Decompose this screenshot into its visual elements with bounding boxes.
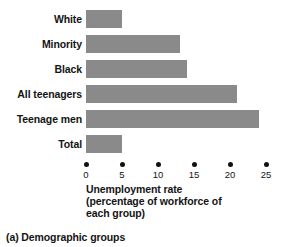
x-tick-dot [228,162,233,167]
x-tick-dot [120,162,125,167]
x-tick-dot [264,162,269,167]
bar-minority [86,35,180,53]
category-label-minority: Minority [0,35,82,53]
bar-white [86,10,122,28]
x-axis: 0 5 10 15 20 25 [0,160,286,182]
category-label-black: Black [0,60,82,78]
bar-row: All teenagers [0,85,286,103]
chart-figure: White Minority Black All teenagers Teena… [0,0,286,247]
x-axis-title-line-2: (percentage of workforce of [86,195,282,207]
x-tick-dot [192,162,197,167]
bar-row: White [0,10,286,28]
x-tick-label: 10 [146,169,170,181]
bar-total [86,135,122,153]
x-tick-label: 5 [110,169,134,181]
category-label-all-teenagers: All teenagers [0,85,82,103]
x-tick-label: 15 [182,169,206,181]
x-tick-label: 25 [254,169,278,181]
bar-teenage-men [86,110,259,128]
x-tick-label: 0 [74,169,98,181]
bar-row: Minority [0,35,286,53]
x-axis-title: Unemployment rate (percentage of workfor… [86,183,282,220]
category-label-white: White [0,10,82,28]
bar-all-teenagers [86,85,237,103]
figure-caption: (a) Demographic groups [6,231,125,243]
x-axis-title-line-1: Unemployment rate [86,183,282,195]
category-label-total: Total [0,135,82,153]
category-label-teenage-men: Teenage men [0,110,82,128]
x-tick-dot [84,162,89,167]
bar-row: Black [0,60,286,78]
bar-row: Total [0,135,286,153]
x-tick-dot [156,162,161,167]
x-axis-title-line-3: each group) [86,207,282,219]
bar-row: Teenage men [0,110,286,128]
bar-black [86,60,187,78]
x-tick-label: 20 [218,169,242,181]
